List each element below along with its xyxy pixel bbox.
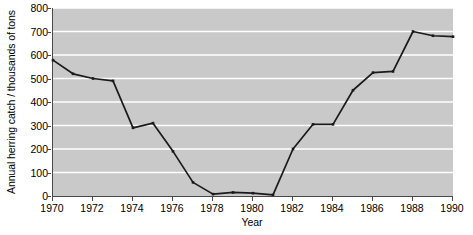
x-axis-tick-mark (372, 197, 373, 201)
y-axis-tick-label: 500 (4, 73, 48, 85)
y-axis-tick-mark (47, 79, 51, 80)
x-axis-tick-label: 1972 (70, 202, 114, 214)
x-axis-tick-label: 1990 (430, 202, 473, 214)
x-axis-tick-mark (212, 197, 213, 201)
x-axis-tick-mark (412, 197, 413, 201)
y-axis-tick-mark (47, 8, 51, 9)
data-point-marker (332, 123, 335, 126)
data-point-marker (392, 70, 395, 73)
data-point-marker (232, 191, 235, 194)
x-axis-tick-mark (332, 197, 333, 201)
x-axis-tick-mark (292, 197, 293, 201)
data-series-line (53, 8, 453, 196)
data-point-marker (52, 59, 55, 62)
y-axis-tick-label: 600 (4, 49, 48, 61)
data-point-marker (172, 150, 175, 153)
x-axis-tick-label: 1982 (270, 202, 314, 214)
data-point-marker (412, 30, 415, 33)
data-point-marker (312, 123, 315, 126)
y-axis-tick-mark (47, 102, 51, 103)
data-point-marker (372, 71, 375, 74)
data-point-marker (352, 89, 355, 92)
data-point-marker (72, 73, 75, 76)
x-axis-tick-label: 1986 (350, 202, 394, 214)
data-point-marker (152, 122, 155, 125)
x-axis-tick-mark (172, 197, 173, 201)
y-axis-tick-mark (47, 173, 51, 174)
y-axis-tick-mark (47, 126, 51, 127)
x-axis-tick-mark (92, 197, 93, 201)
y-axis-tick-mark (47, 55, 51, 56)
x-axis-tick-mark (252, 197, 253, 201)
data-point-marker (432, 34, 435, 37)
y-axis-tick-mark (47, 196, 51, 197)
y-axis-tick-mark (47, 32, 51, 33)
y-axis-tick-label: 200 (4, 143, 48, 155)
data-point-marker (272, 194, 275, 197)
x-axis-tick-group: 1970197219741976197819801982198419861988… (52, 197, 456, 215)
y-axis-tick-label: 100 (4, 167, 48, 179)
y-axis-tick-label: 800 (4, 2, 48, 14)
x-axis-tick-label: 1970 (30, 202, 74, 214)
x-axis-tick-label: 1980 (230, 202, 274, 214)
x-axis-tick-label: 1984 (310, 202, 354, 214)
chart-figure: Annual herring catch / thousands of tons… (0, 0, 473, 235)
data-point-marker (212, 193, 215, 196)
y-axis-tick-label: 300 (4, 120, 48, 132)
data-point-marker (92, 77, 95, 80)
x-axis-tick-mark (132, 197, 133, 201)
x-axis-tick-mark (52, 197, 53, 201)
y-axis-tick-mark (47, 149, 51, 150)
data-point-marker (112, 80, 115, 83)
y-axis-tick-label: 0 (4, 190, 48, 202)
y-axis-tick-label: 400 (4, 96, 48, 108)
data-point-marker (132, 127, 135, 130)
x-axis-tick-mark (452, 197, 453, 201)
data-point-marker (252, 192, 255, 195)
x-axis-tick-label: 1988 (390, 202, 434, 214)
x-axis-tick-label: 1976 (150, 202, 194, 214)
series-line (53, 32, 453, 195)
data-point-marker (292, 148, 295, 151)
data-point-marker (192, 181, 195, 184)
y-axis-tick-label: 700 (4, 26, 48, 38)
y-axis-tick-group: 0100200300400500600700800 (0, 8, 48, 196)
x-axis-tick-label: 1974 (110, 202, 154, 214)
x-axis-tick-label: 1978 (190, 202, 234, 214)
x-axis-label: Year (52, 216, 452, 228)
plot-area (52, 8, 453, 197)
data-point-marker (452, 35, 455, 38)
